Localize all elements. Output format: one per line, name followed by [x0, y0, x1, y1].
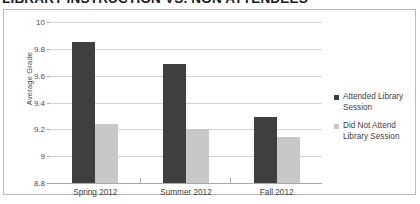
bar [72, 42, 95, 183]
bar-group-bars [141, 22, 232, 183]
legend-label-attended: Attended Library Session [343, 92, 418, 113]
bar-group-bars [231, 22, 322, 183]
y-axis-tick-label: 9.6 [34, 71, 45, 80]
y-axis-title: Average Grade [25, 36, 34, 122]
bar [186, 129, 209, 183]
y-axis-tick-label: 10 [36, 18, 45, 27]
chart-frame: Average Grade 109.89.69.49.298.8 Spring … [3, 9, 416, 195]
y-axis-tick-label: 9 [41, 152, 45, 161]
bar [254, 117, 277, 183]
bar-group-bars [50, 22, 141, 183]
bar-group: Summer 2012 [141, 22, 232, 183]
legend-item-did-not-attend: Did Not Attend Library Session [334, 121, 418, 142]
y-axis-tick-mark [47, 183, 50, 184]
y-axis-tick-label: 9.2 [34, 125, 45, 134]
chart-screenshot: LIBRARY INSTRUCTION VS. NON ATTENDEES Av… [0, 0, 420, 204]
legend-label-did-not-attend: Did Not Attend Library Session [343, 121, 418, 142]
gridline: 8.8 [50, 183, 322, 184]
bar-group: Spring 2012 [50, 22, 141, 183]
chart-title: LIBRARY INSTRUCTION VS. NON ATTENDEES [2, 0, 418, 6]
y-axis-tick-label: 9.4 [34, 98, 45, 107]
x-axis-category-label: Fall 2012 [231, 188, 322, 197]
plot-area: 109.89.69.49.298.8 Spring 2012Summer 201… [50, 22, 322, 183]
x-axis-category-label: Spring 2012 [50, 188, 141, 197]
y-axis-tick-label: 9.8 [34, 44, 45, 53]
bar [95, 124, 118, 183]
chart-legend: Attended Library Session Did Not Attend … [334, 92, 418, 150]
bar-groups: Spring 2012Summer 2012Fall 2012 [50, 22, 322, 183]
x-axis-category-label: Summer 2012 [141, 188, 232, 197]
legend-item-attended: Attended Library Session [334, 92, 418, 113]
legend-swatch-icon-did-not-attend [334, 124, 339, 129]
legend-swatch-icon-attended [334, 95, 339, 100]
bar [163, 64, 186, 183]
bar [277, 137, 300, 183]
y-axis-tick-label: 8.8 [34, 179, 45, 188]
bar-group: Fall 2012 [231, 22, 322, 183]
